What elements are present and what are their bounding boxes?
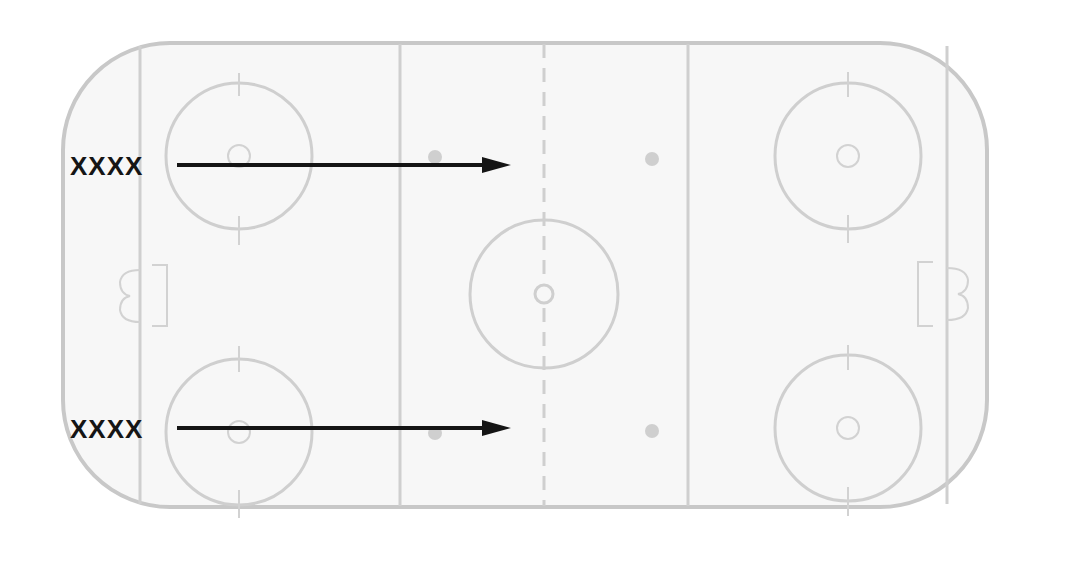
player-group-label-top: XXXX — [70, 153, 143, 179]
center-faceoff-spot — [535, 285, 553, 303]
neutral-dot-top-right — [645, 152, 659, 166]
neutral-dot-top-left — [428, 150, 442, 164]
neutral-dot-bottom-right — [645, 424, 659, 438]
rink-boards — [63, 43, 987, 507]
player-group-label-bottom: XXXX — [70, 416, 143, 442]
hockey-rink-diagram — [0, 0, 1080, 577]
